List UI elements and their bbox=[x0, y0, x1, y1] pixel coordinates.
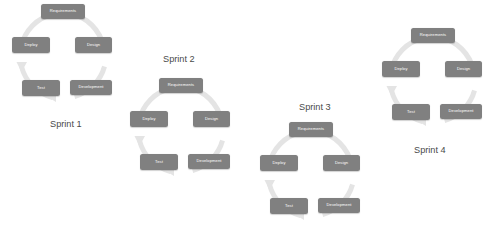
stage-development[interactable]: Development bbox=[318, 198, 360, 213]
stage-requirements[interactable]: Requirements bbox=[289, 122, 333, 137]
stage-test[interactable]: Test bbox=[22, 80, 60, 96]
sprint-cycle-4: Requirements Design Development Test Dep… bbox=[378, 26, 488, 136]
stage-deploy[interactable]: Deploy bbox=[12, 37, 50, 53]
sprint-label-3: Sprint 3 bbox=[299, 103, 331, 112]
sprint-label-1: Sprint 1 bbox=[50, 120, 82, 129]
stage-design[interactable]: Design bbox=[323, 155, 360, 171]
sprint-cycle-1: Requirements Design Development Test Dep… bbox=[8, 2, 118, 112]
stage-design[interactable]: Design bbox=[445, 61, 482, 77]
stage-deploy[interactable]: Deploy bbox=[130, 111, 168, 127]
stage-deploy[interactable]: Deploy bbox=[260, 155, 298, 171]
sprint-cycle-3: Requirements Design Development Test Dep… bbox=[256, 120, 366, 230]
stage-design[interactable]: Design bbox=[75, 37, 112, 53]
sprint-label-2: Sprint 2 bbox=[163, 55, 195, 64]
stage-design[interactable]: Design bbox=[193, 111, 230, 127]
stage-deploy[interactable]: Deploy bbox=[382, 61, 420, 77]
stage-test[interactable]: Test bbox=[392, 104, 430, 120]
stage-development[interactable]: Development bbox=[440, 104, 482, 119]
stage-test[interactable]: Test bbox=[270, 198, 308, 214]
stage-requirements[interactable]: Requirements bbox=[411, 28, 455, 43]
sprint-cycles-diagram: Requirements Design Development Test Dep… bbox=[0, 0, 501, 233]
stage-test[interactable]: Test bbox=[140, 154, 178, 170]
sprint-cycle-2: Requirements Design Development Test Dep… bbox=[126, 76, 236, 186]
stage-development[interactable]: Development bbox=[188, 154, 230, 169]
sprint-label-4: Sprint 4 bbox=[414, 146, 446, 155]
stage-requirements[interactable]: Requirements bbox=[159, 78, 203, 93]
stage-development[interactable]: Development bbox=[70, 80, 112, 95]
stage-requirements[interactable]: Requirements bbox=[41, 4, 85, 19]
